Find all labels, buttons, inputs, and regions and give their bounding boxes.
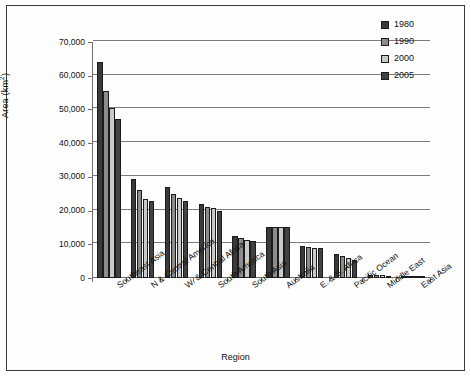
- legend-swatch-icon: [381, 21, 389, 29]
- bar: [380, 275, 385, 278]
- bar-group: [329, 42, 363, 278]
- x-axis-title: Region: [0, 352, 471, 362]
- bar-group: [126, 42, 160, 278]
- x-axis-tick-label: N & Central America: [149, 282, 155, 290]
- y-axis-tick-label: 60,000: [59, 71, 85, 80]
- bar: [413, 276, 418, 278]
- y-axis-title-superscript: 2: [0, 76, 5, 80]
- y-axis-title: Area (km2): [0, 73, 10, 118]
- bar: [115, 119, 120, 278]
- bar: [165, 187, 170, 278]
- y-axis-tick-label: 40,000: [59, 139, 85, 148]
- x-axis-tick-label: East Asia: [419, 282, 425, 290]
- bar-group: [92, 42, 126, 278]
- legend-item[interactable]: 1980: [381, 16, 443, 33]
- y-axis-title-close: ): [0, 73, 10, 76]
- x-axis-tick-label: Pacific Ocean: [352, 282, 358, 290]
- x-axis-tick-labels: Southeast AsiaN & Central AmericaW. & Ce…: [92, 280, 430, 350]
- bar: [109, 108, 114, 278]
- legend-item[interactable]: 1990: [381, 33, 443, 50]
- y-axis-tick-label: 0: [80, 274, 85, 283]
- y-axis-tick-label: 50,000: [59, 105, 85, 114]
- bar-group: [160, 42, 194, 278]
- legend-item-label: 1980: [394, 20, 414, 29]
- legend-item-label: 2005: [394, 71, 414, 80]
- bar-group: [261, 42, 295, 278]
- x-axis-tick-label: Australia: [284, 282, 290, 290]
- y-axis-title-text: Area (km: [0, 80, 10, 118]
- y-axis-tick-label: 70,000: [59, 38, 85, 47]
- legend-item-label: 1990: [394, 37, 414, 46]
- bar: [103, 91, 108, 278]
- bar: [284, 227, 289, 278]
- x-axis-tick-label: South Asia: [250, 282, 256, 290]
- x-axis-tick-label: Southeast Asia: [115, 282, 121, 290]
- legend-item[interactable]: 2005: [381, 67, 443, 84]
- legend-item[interactable]: 2000: [381, 50, 443, 67]
- x-axis-tick-label: Middle East: [385, 282, 391, 290]
- legend-swatch-icon: [381, 38, 389, 46]
- chart-figure: Area (km2) 70,00060,00050,00040,00030,00…: [0, 0, 471, 377]
- x-axis-tick-label: W. & Central Africa: [183, 282, 189, 290]
- bar-series-layer: [92, 42, 430, 278]
- bar: [131, 179, 136, 278]
- legend-swatch-icon: [381, 72, 389, 80]
- legend-swatch-icon: [381, 55, 389, 63]
- y-axis-tick-label: 30,000: [59, 172, 85, 181]
- chart-legend: 1980199020002005: [381, 16, 443, 84]
- x-axis-tick-label: E. & S. Africa: [318, 282, 324, 290]
- legend-item-label: 2000: [394, 54, 414, 63]
- bar: [312, 248, 317, 278]
- y-axis-tick-label: 20,000: [59, 206, 85, 215]
- bar-group: [295, 42, 329, 278]
- gridline: [93, 40, 430, 41]
- bar: [97, 62, 102, 278]
- y-axis-tick-label: 10,000: [59, 240, 85, 249]
- bar-group: [227, 42, 261, 278]
- bar: [318, 248, 323, 278]
- x-axis-tick-label: South America: [216, 282, 222, 290]
